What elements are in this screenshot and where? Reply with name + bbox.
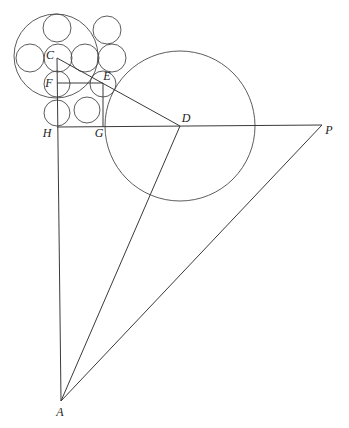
labels-group: ACDEFGHP bbox=[42, 48, 334, 419]
segment-ca bbox=[57, 58, 61, 401]
point-label-a: A bbox=[55, 405, 64, 419]
small-circle bbox=[16, 44, 44, 72]
segment-pa bbox=[61, 125, 322, 401]
small-circle bbox=[44, 100, 70, 126]
point-label-d: D bbox=[181, 111, 191, 125]
segments-group bbox=[57, 58, 322, 401]
small-circle bbox=[74, 97, 100, 123]
small-circle bbox=[93, 16, 121, 44]
point-label-e: E bbox=[102, 69, 111, 83]
outer-circle-C bbox=[14, 14, 98, 98]
point-label-p: P bbox=[324, 123, 333, 137]
small-circle bbox=[43, 14, 71, 42]
point-label-c: C bbox=[46, 48, 55, 62]
point-label-g: G bbox=[95, 126, 104, 140]
geometry-diagram: ACDEFGHP bbox=[0, 0, 349, 428]
small-circle bbox=[98, 44, 126, 72]
point-label-f: F bbox=[44, 76, 53, 90]
point-label-h: H bbox=[42, 126, 53, 140]
segment-da bbox=[61, 126, 180, 401]
circles-group bbox=[14, 14, 255, 201]
